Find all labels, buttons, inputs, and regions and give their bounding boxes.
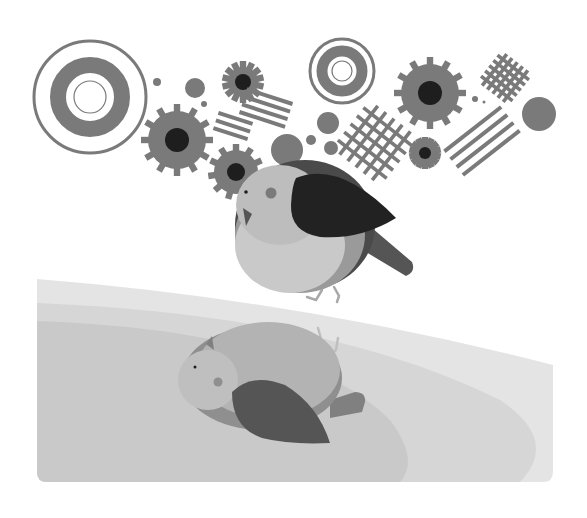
target-small — [310, 39, 374, 103]
decor-dot — [324, 141, 338, 155]
reflection-cheek — [214, 378, 223, 387]
target-large — [34, 41, 146, 153]
target-thick-ring — [322, 51, 362, 91]
bird-leg-right — [334, 287, 339, 302]
gear-hub — [165, 128, 189, 152]
gear-hub — [419, 147, 431, 159]
target-inner-ring — [332, 61, 352, 81]
stripes-b — [213, 113, 252, 139]
bird-eye — [244, 190, 248, 194]
illustration-canvas — [0, 0, 587, 518]
decor-dot — [522, 97, 556, 131]
reflection-eye — [194, 366, 197, 369]
bird-illustration — [0, 0, 587, 518]
stripe-line — [457, 123, 514, 167]
gear-spiky-top — [222, 61, 264, 103]
stripe-line — [444, 107, 501, 151]
decor-dot — [201, 101, 207, 107]
stripe-line — [451, 115, 508, 159]
decor-dot — [153, 78, 161, 86]
decor-dot — [483, 101, 486, 104]
gear-spiky-bottom — [409, 137, 442, 169]
target-inner-ring — [74, 81, 106, 113]
stripe-line — [463, 131, 520, 175]
gear-hub — [418, 81, 442, 105]
decor-dot — [317, 112, 339, 134]
target-thick-ring — [58, 65, 122, 129]
stripes-c — [444, 107, 519, 175]
gear-hub — [235, 74, 251, 90]
bird-wing — [291, 174, 396, 238]
gear-hub — [227, 163, 245, 181]
reflection-head — [178, 350, 238, 410]
decor-dot — [185, 78, 205, 98]
bird — [235, 160, 413, 302]
grid-small — [477, 50, 533, 106]
gear-large-left — [141, 104, 213, 176]
bird-cheek — [266, 188, 277, 199]
decor-dot — [472, 96, 478, 102]
gear-large-right — [394, 57, 466, 129]
decor-dot — [306, 135, 316, 145]
